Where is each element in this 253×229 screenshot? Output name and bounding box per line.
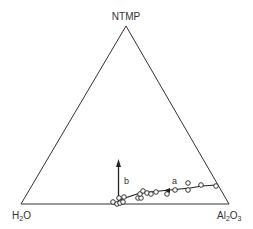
ternary-diagram: NTMP H2O Al2O3 b a — [0, 0, 253, 229]
data-point — [117, 196, 122, 201]
data-point — [173, 188, 178, 193]
curve-label-b: b — [124, 176, 129, 186]
data-point — [165, 192, 170, 197]
arrowhead-icon — [116, 159, 121, 167]
vertex-label-ntmp: NTMP — [112, 11, 141, 22]
curve-label-a: a — [172, 176, 177, 186]
data-point — [199, 183, 204, 188]
vertex-label-h2o: H2O — [12, 210, 31, 222]
data-point — [186, 181, 191, 186]
data-point — [121, 200, 126, 205]
data-point — [186, 188, 191, 193]
data-point — [149, 192, 154, 197]
data-point — [214, 184, 219, 189]
data-point — [154, 190, 159, 195]
vertex-label-al2o3: Al2O3 — [217, 210, 242, 222]
data-point — [122, 195, 127, 200]
